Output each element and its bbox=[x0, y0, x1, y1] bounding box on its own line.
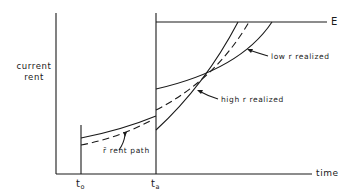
low-r-realized-label: low r realized bbox=[271, 53, 330, 61]
high-r-arrowhead bbox=[197, 90, 203, 94]
diagram-canvas bbox=[0, 0, 355, 196]
y-axis-label-line1: current bbox=[14, 61, 54, 72]
high-r-realized-label: high r realized bbox=[221, 96, 284, 104]
ta-tick-label: ta bbox=[151, 179, 160, 191]
high-r-realized-curve bbox=[156, 22, 238, 130]
t0-subscript: o bbox=[81, 183, 86, 191]
t0-tick-label: to bbox=[76, 179, 85, 191]
e-ceiling-label: E bbox=[331, 17, 338, 27]
rbar-arrowhead bbox=[123, 132, 127, 137]
ta-subscript: a bbox=[156, 183, 161, 191]
y-axis-label: current rent bbox=[14, 61, 54, 83]
rbar-rent-path-dashed-curve bbox=[81, 121, 150, 145]
rbar-rent-path-label: r̄ rent path bbox=[103, 147, 150, 155]
low-r-realized-curve bbox=[156, 22, 272, 89]
y-axis-label-line2: rent bbox=[14, 72, 54, 83]
x-axis-label: time bbox=[316, 169, 339, 178]
